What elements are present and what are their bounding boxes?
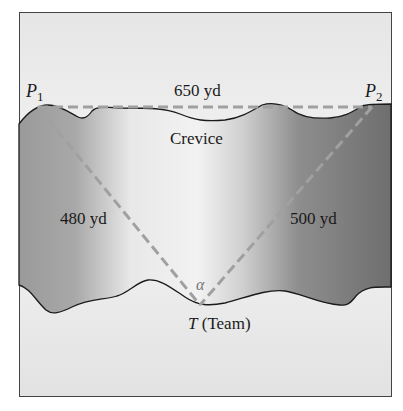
crevice-diagram: P1 P2 650 yd Crevice 480 yd 500 yd α T (… <box>0 0 403 411</box>
angle-alpha-label: α <box>196 276 205 293</box>
point-t-label: T (Team) <box>188 314 251 333</box>
distance-p1-t-label: 480 yd <box>60 209 107 228</box>
distance-p2-t-label: 500 yd <box>290 209 337 228</box>
distance-p1-p2-label: 650 yd <box>174 81 221 100</box>
crevice-label: Crevice <box>170 129 223 148</box>
